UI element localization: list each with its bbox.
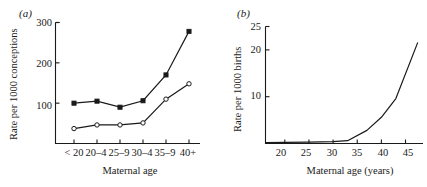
panel-a-marker-filled-square [118, 105, 122, 109]
panel-a-axis-spines [56, 23, 201, 144]
panel-a-marker-open-circle [187, 82, 191, 86]
panel-a-marker-filled-square [95, 99, 99, 103]
panel-a-marker-filled-square [187, 29, 191, 33]
panel-a-marker-filled-square [72, 101, 76, 105]
panel-a: (a) Rate per 1000 conceptions Maternal a… [0, 0, 214, 187]
panel-b: (b) Rate per 1000 births Maternal age (y… [213, 0, 427, 187]
panel-a-marker-filled-square [164, 73, 168, 77]
panel-b-plot-area [213, 0, 427, 187]
panel-a-marker-open-circle [95, 123, 99, 127]
panel-a-marker-open-circle [141, 121, 145, 125]
panel-b-axis-spines [266, 27, 424, 144]
panel-b-series-line-birth-rate-curve [266, 43, 418, 143]
panel-a-marker-open-circle [164, 97, 168, 101]
panel-a-marker-filled-square [141, 99, 145, 103]
panel-a-marker-open-circle [72, 126, 76, 130]
panel-a-marker-open-circle [118, 123, 122, 127]
figure-two-panel-line-charts: (a) Rate per 1000 conceptions Maternal a… [0, 0, 427, 187]
panel-a-series-line-open-circle-series [74, 84, 189, 129]
panel-a-plot-area [0, 0, 214, 187]
